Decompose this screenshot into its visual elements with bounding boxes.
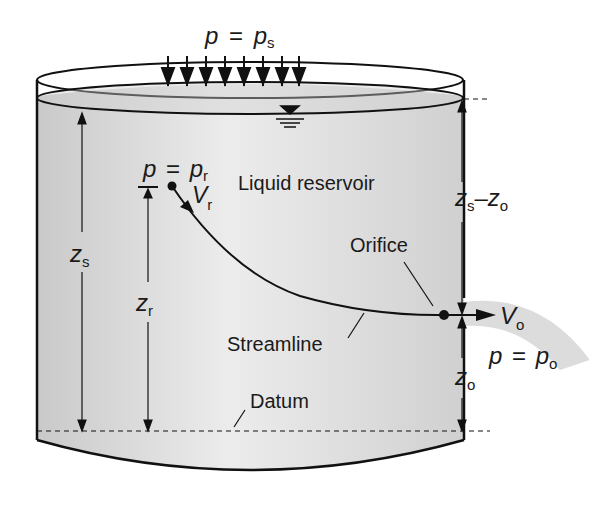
streamline-label: Streamline	[227, 333, 323, 355]
z-o-label: zo	[454, 363, 475, 393]
reservoir-diagram: p = ps p = pr Vr Liquid reservoir Orific…	[0, 0, 589, 516]
liquid-body	[37, 84, 464, 470]
point-r-marker	[168, 182, 177, 191]
datum-label: Datum	[250, 390, 309, 412]
reservoir-label: Liquid reservoir	[238, 172, 375, 194]
z-s-minus-z-o-label: zs–zo	[454, 184, 508, 214]
point-r-pressure-label: p = pr	[142, 155, 208, 184]
surface-pressure-label: p = ps	[204, 22, 275, 51]
outlet-pressure-label: p = po	[488, 342, 557, 372]
liquid-surface	[37, 82, 463, 114]
orifice-label: Orifice	[350, 234, 408, 256]
